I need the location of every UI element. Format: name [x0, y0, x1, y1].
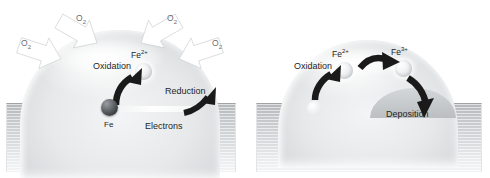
fe2-ion-label-left: Fe2+ — [131, 49, 148, 59]
right-panel: Fe2+ Fe3+ Oxidation Deposition — [252, 0, 484, 178]
electrons-label: Electrons — [145, 122, 183, 131]
deposition-label: Deposition — [386, 110, 429, 119]
ion-transfer-arrow — [356, 50, 408, 80]
iron-atom-label: Fe — [104, 121, 113, 129]
deposition-arrow — [404, 72, 444, 128]
reduction-label: Reduction — [165, 87, 206, 96]
oxidation-arrow-right — [309, 62, 359, 108]
o2-label-left: O2 — [21, 39, 31, 50]
iron-atom-sphere — [101, 99, 118, 116]
left-panel: O2 O2 O2 O2 Fe2+ Oxidation Fe — [0, 0, 240, 178]
corrosion-diagram-figure: O2 O2 O2 O2 Fe2+ Oxidation Fe — [0, 0, 490, 178]
o2-label-right: O2 — [212, 39, 222, 50]
o2-label-top-left: O2 — [76, 14, 86, 25]
o2-label-top-right: O2 — [167, 14, 177, 25]
o2-arrow-far-right — [174, 30, 226, 74]
o2-arrow-far-left — [14, 30, 66, 74]
fe2-ion-label: Fe2+ — [332, 48, 349, 58]
